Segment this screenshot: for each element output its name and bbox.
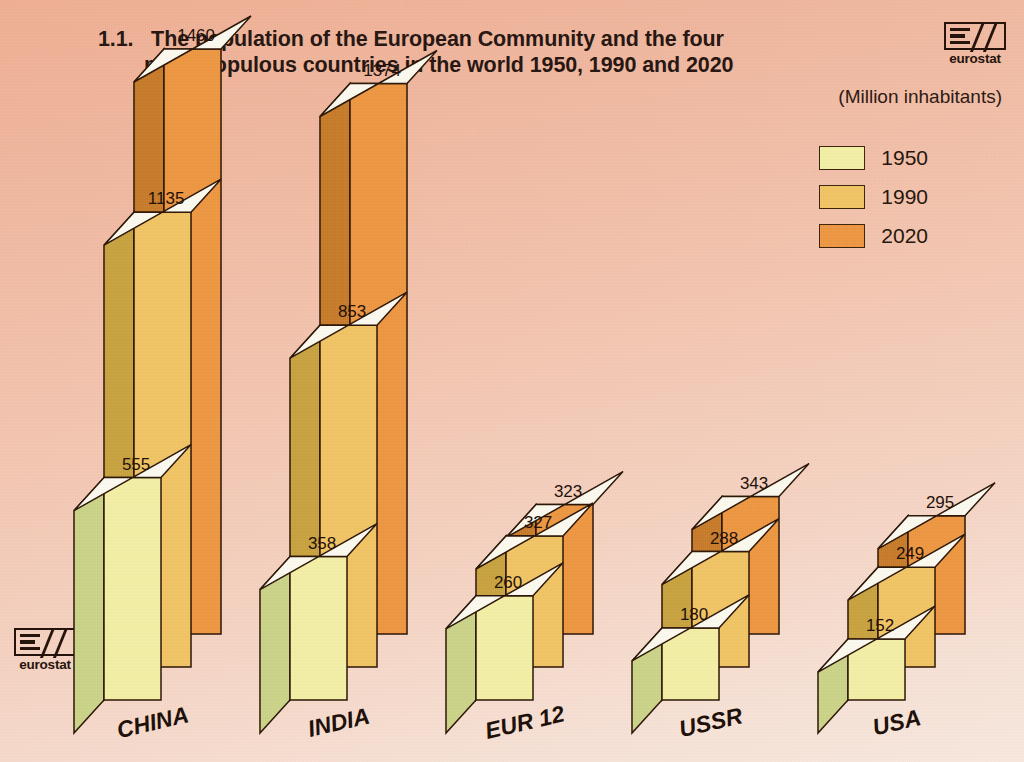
category-label-china: CHINA [114,701,191,743]
category-label-eur-12: EUR 12 [483,700,568,743]
bar-value-label: 327 [524,513,552,532]
bar-value-label: 343 [740,474,768,493]
bar-value-label: 1460 [177,26,215,45]
category-label-usa: USA [870,704,923,740]
bar-value-label: 180 [680,605,708,624]
bar-value-label: 853 [338,302,366,321]
bar-value-label: 249 [896,544,924,563]
category-label-india: INDIA [305,702,372,741]
bar-value-label: 288 [710,529,738,548]
bar-value-label: 323 [554,482,582,501]
bar-value-label: 1135 [148,189,185,208]
category-label-ussr: USSR [677,702,745,742]
bar-value-label: 555 [122,455,150,474]
bar-value-label: 358 [308,534,336,553]
chart-page: 1.1. The population of the European Comm… [0,0,1024,762]
bar-value-label: 1374 [363,61,401,80]
bar-chart: 14601135555CHINA1374853358INDIA323327260… [0,0,1024,762]
bar-value-label: 260 [494,573,522,592]
bar-value-label: 295 [926,493,954,512]
bar-value-label: 152 [866,616,894,635]
